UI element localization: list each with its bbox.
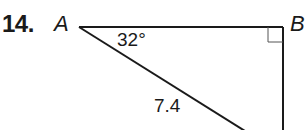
angle-label: 32°	[117, 29, 146, 51]
side-length-label: 7.4	[154, 95, 180, 117]
triangle-diagram	[0, 0, 306, 130]
right-angle-marker-icon	[268, 27, 283, 42]
